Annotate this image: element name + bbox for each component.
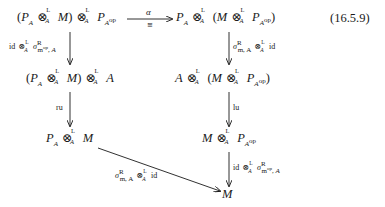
node-top-right: PA ⊗LA (M ⊗LA PAop) xyxy=(176,11,275,24)
lu-label: lu xyxy=(233,104,239,112)
node-bottom: M xyxy=(222,188,232,201)
right-arrow-3-label: id ⊗LA σRmop, A xyxy=(233,164,280,172)
node-low-right: M ⊗LA PAop xyxy=(202,132,256,145)
iso-label: ≅ xyxy=(147,22,153,29)
diagonal-arrow-label: σRm, A ⊗LA id xyxy=(115,172,157,180)
node-low-left: PA ⊗LA M xyxy=(46,132,93,145)
diagonal-arrow xyxy=(98,148,220,191)
right-arrow-1-label: σRm, A ⊗LA id xyxy=(233,43,275,51)
left-arrow-1-label: id ⊗LA σRmop, A xyxy=(9,43,56,51)
node-top-left: (PA ⊗LA M) ⊗LA PAop xyxy=(17,11,116,24)
node-mid-left: (PA ⊗LA M) ⊗LA A xyxy=(26,72,114,85)
node-mid-right: A ⊗LA (M ⊗LA PAop) xyxy=(175,72,270,85)
equation-number: (16.5.9) xyxy=(330,11,370,26)
alpha-label: α xyxy=(146,8,151,17)
ru-label: ru xyxy=(56,104,63,112)
